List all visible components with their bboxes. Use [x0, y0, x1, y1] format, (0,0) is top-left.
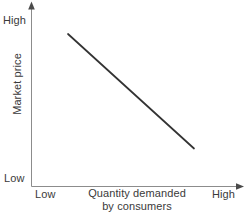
chart-canvas — [0, 0, 249, 217]
demand-curve-chart: High Low Low High Market price Quantity … — [0, 0, 249, 217]
x-axis-title-line-2: by consumers — [31, 200, 243, 213]
y-axis-arrowhead — [28, 2, 35, 10]
y-axis-low-tick-label: Low — [4, 172, 24, 184]
x-axis-title-line-1: Quantity demanded — [31, 187, 243, 200]
demand-curve-line — [68, 34, 194, 149]
y-axis-title: Market price — [11, 39, 23, 129]
x-axis-title: Quantity demanded by consumers — [31, 187, 243, 213]
y-axis-high-tick-label: High — [3, 14, 26, 26]
